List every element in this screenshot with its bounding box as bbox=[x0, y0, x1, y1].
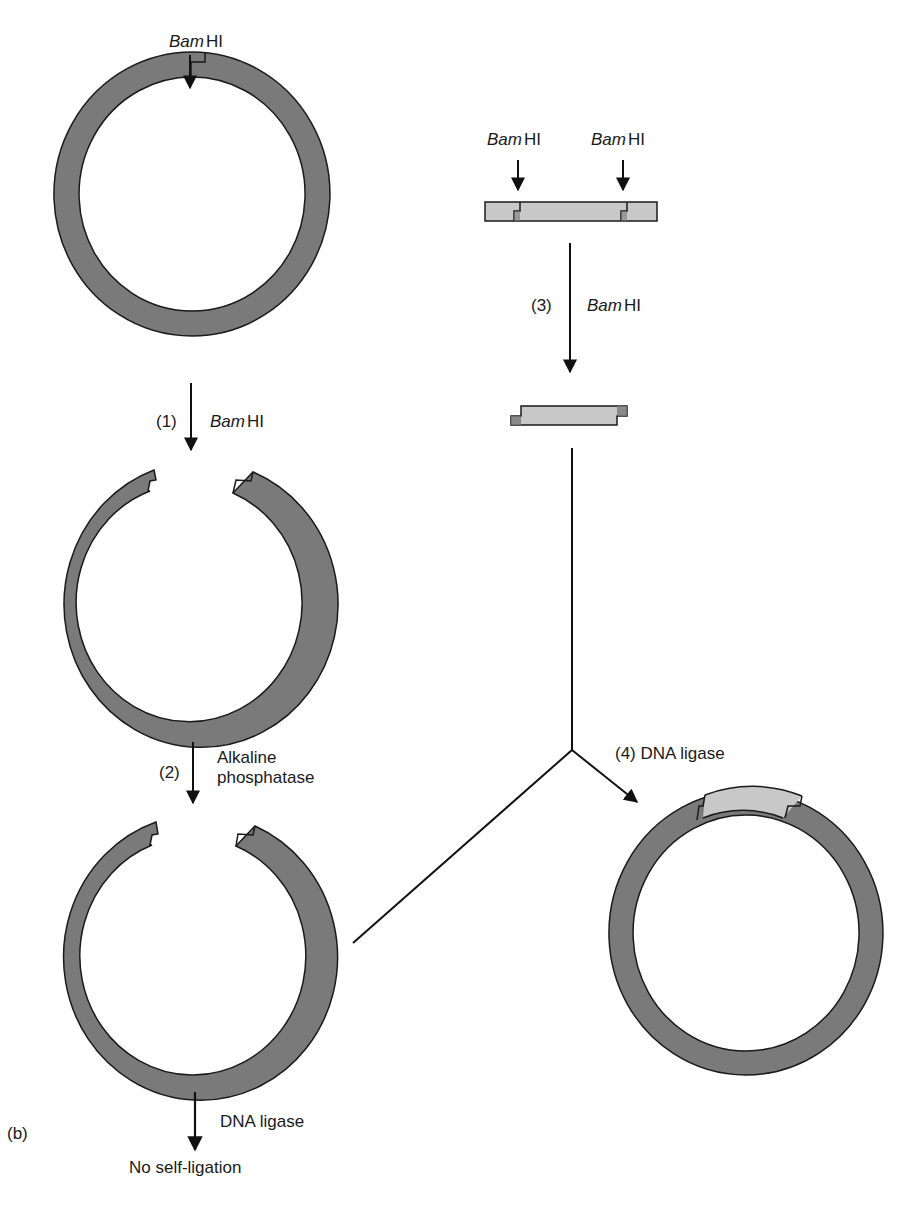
step1-enzyme-label: BamHI bbox=[210, 412, 264, 432]
enzyme-name-italic: Bam bbox=[487, 130, 522, 149]
dephosphorylated-plasmid bbox=[64, 822, 338, 1100]
vector-join-line bbox=[353, 750, 572, 943]
enzyme-name-roman: HI bbox=[524, 130, 541, 149]
insert-dna-fragment bbox=[485, 202, 657, 221]
enzyme-name-roman: HI bbox=[628, 130, 645, 149]
insert-bamhi-label-left: BamHI bbox=[487, 130, 541, 150]
enzyme-name-italic: Bam bbox=[210, 412, 245, 431]
intact-plasmid bbox=[54, 52, 330, 336]
recombinant-plasmid bbox=[609, 786, 883, 1075]
vector-bamhi-label: BamHI bbox=[169, 32, 223, 52]
step3-number: (3) bbox=[531, 296, 552, 316]
enzyme-name-roman: HI bbox=[206, 32, 223, 51]
enzyme-name-italic: Bam bbox=[587, 296, 622, 315]
enzyme-name-italic: Bam bbox=[169, 32, 204, 51]
step1-number: (1) bbox=[156, 412, 177, 432]
step3-enzyme-label: BamHI bbox=[587, 296, 641, 316]
linearized-plasmid bbox=[64, 470, 338, 747]
panel-label: (b) bbox=[7, 1124, 28, 1144]
step2-reagent-line2: phosphatase bbox=[217, 768, 314, 788]
self-ligation-reagent: DNA ligase bbox=[220, 1112, 304, 1132]
step4-label: (4) DNA ligase bbox=[615, 744, 725, 764]
insert-bamhi-label-right: BamHI bbox=[591, 130, 645, 150]
self-ligation-result: No self-ligation bbox=[129, 1158, 241, 1178]
step2-reagent-line1: Alkaline bbox=[217, 748, 277, 768]
cloning-diagram bbox=[0, 0, 916, 1205]
enzyme-name-roman: HI bbox=[624, 296, 641, 315]
step2-number: (2) bbox=[159, 763, 180, 783]
excised-insert bbox=[511, 406, 627, 425]
enzyme-name-italic: Bam bbox=[591, 130, 626, 149]
enzyme-name-roman: HI bbox=[247, 412, 264, 431]
